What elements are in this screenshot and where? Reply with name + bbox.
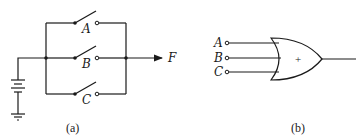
switch-a-label: A (81, 22, 91, 36)
switch-b-label: B (81, 57, 91, 71)
switch-contact (95, 92, 99, 96)
gate-input-b: B (213, 51, 281, 65)
switch-b: B (46, 46, 126, 71)
gate-input-c: C (214, 65, 279, 79)
ground-icon (11, 114, 25, 120)
switch-c: C (46, 82, 126, 107)
input-b-label: B (213, 51, 223, 65)
diagram-canvas: A B C F (a) A (0, 0, 361, 140)
output-label-f: F (167, 51, 177, 65)
battery-branch (11, 58, 46, 120)
gate-input-a: A (213, 36, 279, 50)
or-symbol: + (295, 53, 301, 65)
input-a-label: A (213, 36, 223, 50)
caption-a: (a) (66, 121, 79, 135)
switch-contact (95, 56, 99, 60)
switch-contact (95, 21, 99, 25)
switch-circuit: A B C F (a) (11, 11, 177, 135)
input-c-label: C (214, 65, 223, 79)
or-gate-figure: A B C + (b) (213, 36, 356, 135)
input-terminal (225, 56, 229, 60)
caption-b: (b) (291, 121, 305, 135)
input-terminal (225, 41, 229, 45)
switch-c-label: C (82, 93, 91, 107)
switch-a: A (46, 11, 126, 36)
input-terminal (225, 70, 229, 74)
